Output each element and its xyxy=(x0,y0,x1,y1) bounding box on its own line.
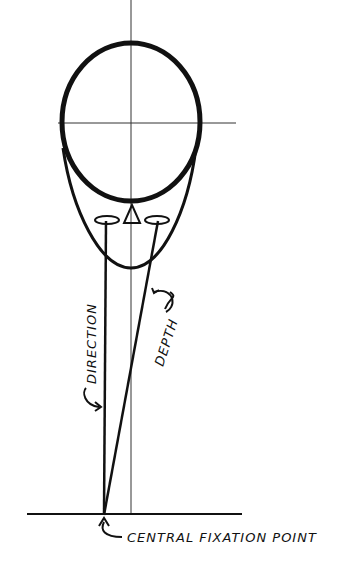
direction-line xyxy=(104,221,106,515)
fixation-arrow-icon xyxy=(103,522,122,537)
direction-label: DIRECTION xyxy=(84,303,99,384)
nose-triangle xyxy=(124,205,140,223)
depth-label: DEPTH xyxy=(152,317,181,368)
fixation-label: CENTRAL FIXATION POINT xyxy=(127,530,317,545)
head-diagram: DIRECTION DEPTH CENTRAL FIXATION POINT xyxy=(0,0,346,572)
jaw-outline xyxy=(63,148,196,268)
